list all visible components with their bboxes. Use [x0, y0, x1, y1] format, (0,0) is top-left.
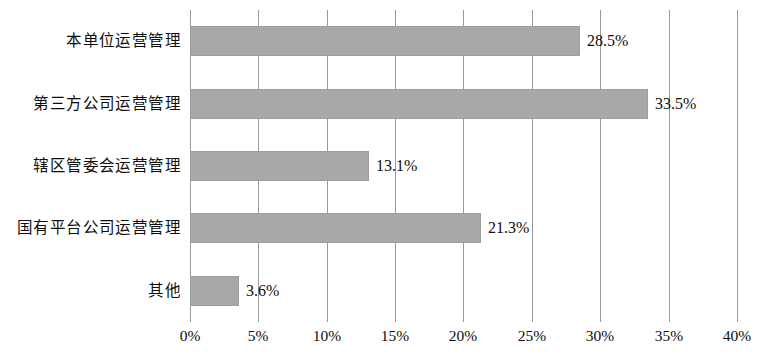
x-tick-label: 15%	[381, 328, 409, 344]
category-label: 辖区管委会运营管理	[33, 158, 190, 174]
category-label: 本单位运营管理	[66, 33, 190, 49]
category-label: 其他	[148, 283, 190, 299]
bar-chart: 本单位运营管理 28.5% 第三方公司运营管理 33.5% 辖区管委会运营管理 …	[0, 0, 762, 356]
bar	[190, 26, 580, 56]
x-tick-label: 30%	[586, 328, 614, 344]
bar-value-label: 33.5%	[655, 96, 696, 112]
bar-group: 本单位运营管理 28.5% 第三方公司运营管理 33.5% 辖区管委会运营管理 …	[0, 10, 762, 322]
bar-value-label: 13.1%	[376, 158, 417, 174]
bar-band: 本单位运营管理 28.5%	[0, 10, 762, 72]
x-tick-label: 5%	[248, 328, 269, 344]
x-tick-label: 20%	[449, 328, 477, 344]
bar-band: 国有平台公司运营管理 21.3%	[0, 197, 762, 259]
bar-value-label: 28.5%	[587, 33, 628, 49]
category-label: 第三方公司运营管理	[33, 96, 190, 112]
bar	[190, 89, 648, 119]
category-label: 国有平台公司运营管理	[17, 221, 190, 237]
bar-band: 其他 3.6%	[0, 260, 762, 322]
x-tick-label: 0%	[180, 328, 201, 344]
x-tick-label: 40%	[723, 328, 751, 344]
x-tick-label: 35%	[655, 328, 683, 344]
bar-band: 辖区管委会运营管理 13.1%	[0, 135, 762, 197]
x-tick-label: 10%	[313, 328, 341, 344]
bar-value-label: 3.6%	[246, 283, 279, 299]
bar-value-label: 21.3%	[488, 220, 529, 236]
bar-band: 第三方公司运营管理 33.5%	[0, 72, 762, 134]
bar	[190, 213, 481, 243]
bar	[190, 151, 369, 181]
bar	[190, 276, 239, 306]
x-tick-label: 25%	[518, 328, 546, 344]
x-axis: 0% 5% 10% 15% 20% 25% 30% 35% 40%	[0, 322, 762, 356]
